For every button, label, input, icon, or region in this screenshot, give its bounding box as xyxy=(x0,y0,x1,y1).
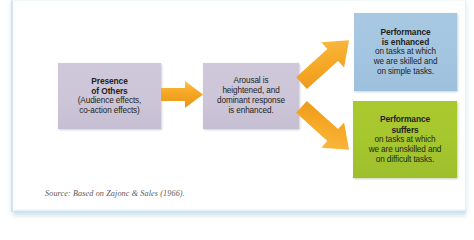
node-suffers-body-line1: on tasks at which xyxy=(374,135,435,145)
node-presence-body-line1: (Audience effects, xyxy=(78,96,142,106)
card-bottom-shadow xyxy=(14,210,466,219)
node-performance-is-enhanced: Performance is enhanced on tasks at whic… xyxy=(354,13,457,91)
arrow-down-right-icon xyxy=(295,99,357,159)
node-suffers-body-line3: on difficult tasks. xyxy=(376,155,434,165)
arrow-right-icon xyxy=(161,81,203,111)
node-enhanced-heading-line2: is enhanced xyxy=(382,37,429,47)
node-presence-body-line2: co-action effects) xyxy=(79,106,139,116)
node-presence-of-others: Presence of Others (Audience effects, co… xyxy=(58,63,161,129)
node-arousal-body-line3: dominant response xyxy=(217,96,285,106)
node-arousal: Arousal is heightened, and dominant resp… xyxy=(203,63,299,129)
node-arousal-body-line4: is enhanced. xyxy=(228,106,273,116)
node-suffers-body-line2: we are unskilled and xyxy=(369,145,442,155)
figure-card: Presence of Others (Audience effects, co… xyxy=(11,0,466,212)
node-enhanced-body-line3: on simple tasks. xyxy=(377,67,434,77)
node-enhanced-body-line1: on tasks at which xyxy=(375,47,436,57)
source-caption: Source: Based on Zajonc & Sales (1966). xyxy=(45,189,185,198)
node-presence-heading-line1: Presence xyxy=(91,76,127,86)
node-enhanced-body-line2: we are skilled and xyxy=(374,57,438,67)
node-arousal-body-line2: heightened, and xyxy=(222,86,279,96)
node-arousal-body-line1: Arousal is xyxy=(234,76,269,86)
node-performance-suffers: Performance suffers on tasks at which we… xyxy=(353,101,457,178)
node-suffers-heading-line2: suffers xyxy=(391,125,418,135)
node-presence-heading-line2: of Others xyxy=(91,86,127,96)
node-suffers-heading-line1: Performance xyxy=(380,114,430,124)
arrow-up-right-icon xyxy=(295,31,357,91)
node-enhanced-heading-line1: Performance xyxy=(380,27,430,37)
